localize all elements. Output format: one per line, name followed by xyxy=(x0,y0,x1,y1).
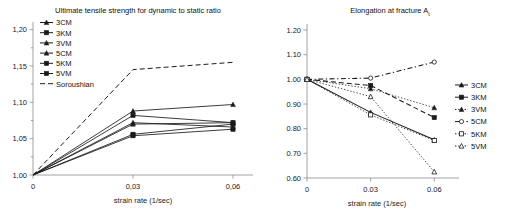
left-y-tick-label: 1,10 xyxy=(12,98,27,107)
left-x-tick-label: 0,03 xyxy=(126,182,141,191)
right-y-tick-label: 0.90 xyxy=(286,100,301,109)
legend-marker-5vm xyxy=(455,144,468,149)
right-x-tick-label: 0 xyxy=(305,185,309,194)
legend-glyph xyxy=(459,144,464,149)
left-legend-label-5cm: 5CM xyxy=(56,49,72,58)
right-point-5km-2 xyxy=(432,138,436,142)
right-y-tick-label: 0.70 xyxy=(286,149,301,158)
right-x-tick-label: 0.06 xyxy=(427,185,442,194)
right-legend: 3CM3KM3VM5CM5KM5VM xyxy=(455,81,487,151)
right-x-axis-label: strain rate (1/sec) xyxy=(348,199,407,208)
left-legend-label-5km: 5KM xyxy=(56,59,71,68)
right-legend-label-5cm: 5CM xyxy=(471,117,487,126)
left-y-tick-label: 1,05 xyxy=(12,134,27,143)
legend-glyph xyxy=(459,132,463,136)
legend-marker-5km xyxy=(455,132,468,136)
left-point-3km-1 xyxy=(131,113,135,117)
left-series-3vm xyxy=(33,123,233,175)
right-y-tick-label: 1.00 xyxy=(286,75,301,84)
left-series-5km xyxy=(33,124,233,175)
right-point-5cm-1 xyxy=(369,76,373,80)
left-x-tick-label: 0 xyxy=(31,182,35,191)
right-series-5vm xyxy=(307,79,434,171)
right-point-5vm-2 xyxy=(432,169,437,174)
left-legend-label-soroushian: Soroushian xyxy=(56,80,94,89)
left-legend-label-3km: 3KM xyxy=(56,29,71,38)
left-legend-label-3cm: 3CM xyxy=(56,18,72,27)
left-point-5vm-1 xyxy=(131,134,135,138)
legend-glyph xyxy=(459,120,463,124)
left-chart-svg: 1,001,051,101,151,2000,030,06strain rate… xyxy=(0,0,260,219)
right-legend-label-3vm: 3VM xyxy=(471,105,486,114)
left-x-axis-label: strain rate (1/sec) xyxy=(114,196,173,205)
legend-glyph xyxy=(44,61,48,65)
legend-glyph xyxy=(44,71,48,75)
legend-marker-5cm xyxy=(455,120,468,124)
right-legend-label-3cm: 3CM xyxy=(471,81,487,90)
right-chart-svg: 0.600.700.800.901.001.101.2000.030.06str… xyxy=(260,0,516,219)
left-y-tick-label: 1,00 xyxy=(12,171,27,180)
right-y-tick-label: 1.20 xyxy=(286,26,301,35)
left-legend-label-3vm: 3VM xyxy=(56,39,71,48)
legend-marker-5cm xyxy=(40,51,53,56)
right-point-5km-1 xyxy=(369,113,373,117)
left-point-5km-2 xyxy=(231,122,235,126)
left-x-tick-label: 0,06 xyxy=(226,182,241,191)
right-y-tick-label: 0.60 xyxy=(286,174,301,183)
right-point-5cm-2 xyxy=(432,60,436,64)
left-legend: 3CM3KM3VM5CM5KM5VMSoroushian xyxy=(40,18,94,88)
legend-glyph xyxy=(44,31,48,35)
left-y-tick-label: 1,15 xyxy=(12,62,27,71)
right-y-tick-label: 1.10 xyxy=(286,50,301,59)
legend-marker-3cm xyxy=(40,20,53,25)
left-point-5vm-2 xyxy=(231,127,235,131)
right-point-3km-2 xyxy=(432,115,436,119)
left-series-5cm xyxy=(33,123,233,175)
legend-marker-5km xyxy=(40,61,53,65)
right-x-tick-label: 0.03 xyxy=(363,185,378,194)
left-y-tick-label: 1,20 xyxy=(12,25,27,34)
legend-marker-3cm xyxy=(455,83,468,88)
right-legend-label-3km: 3KM xyxy=(471,93,486,102)
legend-marker-5vm xyxy=(40,71,53,75)
right-chart-panel: Elongation at fracture At 0.600.700.800.… xyxy=(260,0,516,219)
right-y-tick-label: 0.80 xyxy=(286,124,301,133)
legend-marker-3km xyxy=(455,95,468,99)
figure-root: Ultimate tensile strength for dynamic to… xyxy=(0,0,516,219)
legend-glyph xyxy=(459,107,464,112)
left-chart-panel: Ultimate tensile strength for dynamic to… xyxy=(0,0,260,219)
legend-marker-3vm xyxy=(40,40,53,45)
right-legend-label-5vm: 5VM xyxy=(471,142,486,151)
right-legend-label-5km: 5KM xyxy=(471,130,486,139)
right-series-group xyxy=(305,60,437,174)
legend-marker-3km xyxy=(40,31,53,35)
left-legend-label-5vm: 5VM xyxy=(56,69,71,78)
legend-glyph xyxy=(459,95,463,99)
legend-marker-3vm xyxy=(455,107,468,112)
